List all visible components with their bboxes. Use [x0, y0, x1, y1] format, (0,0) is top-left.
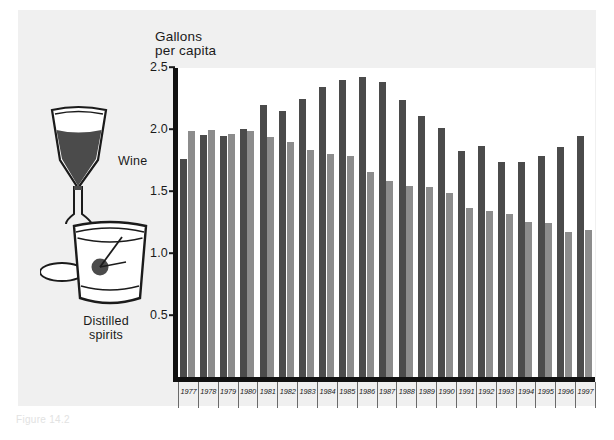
year-label: 1994 [517, 387, 536, 396]
bar-wine [379, 82, 386, 378]
year-label: 1995 [536, 387, 555, 396]
bar-wine [299, 99, 306, 378]
year-label-cell: 1977 [179, 382, 199, 408]
year-label: 1978 [199, 387, 218, 396]
bar-spirits [486, 211, 493, 378]
year-label: 1991 [457, 387, 476, 396]
year-label: 1985 [338, 387, 357, 396]
year-label-cell: 1989 [417, 382, 437, 408]
year-label: 1983 [298, 387, 317, 396]
bar-wine [339, 80, 346, 378]
year-label-cell: 1986 [358, 382, 378, 408]
bar-group [555, 68, 575, 378]
year-label: 1984 [318, 387, 337, 396]
bar-group [516, 68, 536, 378]
bar-spirits [208, 130, 215, 378]
bar-group [535, 68, 555, 378]
year-label-cell: 1979 [219, 382, 239, 408]
year-label-cell: 1981 [258, 382, 278, 408]
bar-wine [557, 147, 564, 378]
bar-wine [279, 111, 286, 378]
bar-spirits [347, 156, 354, 378]
year-label-cell: 1984 [318, 382, 338, 408]
bar-group [396, 68, 416, 378]
year-label-cell: 1992 [477, 382, 497, 408]
year-label: 1977 [179, 387, 198, 396]
bar-spirits [307, 150, 314, 378]
y-tick-label: 2.5 [134, 60, 168, 74]
bar-group [575, 68, 595, 378]
bar-group [218, 68, 238, 378]
year-label-cell: 1988 [397, 382, 417, 408]
bar-wine [260, 105, 267, 378]
bar-spirits [565, 232, 572, 378]
year-label-cell: 1990 [437, 382, 457, 408]
bar-spirits [228, 134, 235, 378]
bar-wine [418, 116, 425, 378]
bar-group [257, 68, 277, 378]
bar-wine [319, 87, 326, 378]
rocks-glass-icon [40, 222, 146, 303]
figure-caption: Figure 14.2 [16, 414, 70, 425]
y-axis-title: Gallons per capita [155, 30, 216, 58]
bar-spirits [506, 214, 513, 378]
bar-wine [518, 162, 525, 378]
bar-wine [220, 136, 227, 378]
bar-spirits [426, 187, 433, 378]
wine-glass-icon [52, 107, 106, 224]
year-label-cell: 1987 [378, 382, 398, 408]
bar-wine [478, 146, 485, 378]
bar-spirits [545, 223, 552, 378]
bar-wine [438, 128, 445, 378]
year-label-cell: 1982 [278, 382, 298, 408]
year-label: 1988 [397, 387, 416, 396]
year-label: 1980 [239, 387, 258, 396]
year-label: 1993 [497, 387, 516, 396]
bar-wine [399, 100, 406, 378]
bar-group [178, 68, 198, 378]
bar-wine [180, 159, 187, 378]
bar-series-container [178, 68, 595, 378]
bar-group [377, 68, 397, 378]
bar-wine [458, 151, 465, 378]
bar-spirits [247, 131, 254, 378]
figure-panel: Gallons per capita 0.51.01.52.02.5 19771… [18, 10, 596, 406]
bar-group [198, 68, 218, 378]
bar-spirits [466, 208, 473, 378]
legend-illustration: Wine Distilled spirits [40, 102, 170, 352]
bar-spirits [327, 154, 334, 378]
bar-wine [359, 77, 366, 378]
year-label-cell: 1997 [576, 382, 596, 408]
bar-wine [577, 136, 584, 378]
year-label: 1990 [437, 387, 456, 396]
bar-wine [498, 162, 505, 378]
year-label-cell: 1980 [239, 382, 259, 408]
bar-group [436, 68, 456, 378]
bar-wine [538, 156, 545, 378]
year-label: 1987 [378, 387, 397, 396]
year-label-cell: 1985 [338, 382, 358, 408]
year-label: 1981 [258, 387, 277, 396]
bar-group [496, 68, 516, 378]
bar-group [297, 68, 317, 378]
year-label-cell: 1993 [497, 382, 517, 408]
bar-spirits [386, 181, 393, 378]
year-label-cell: 1996 [556, 382, 576, 408]
bar-group [416, 68, 436, 378]
year-label-cell: 1991 [457, 382, 477, 408]
bar-spirits [367, 172, 374, 378]
bar-spirits [406, 186, 413, 378]
x-axis-year-labels: 1977197819791980198119821983198419851986… [178, 382, 596, 408]
legend-label-spirits: Distilled spirits [68, 314, 144, 342]
year-label: 1982 [278, 387, 297, 396]
year-label: 1997 [576, 387, 595, 396]
bar-group [238, 68, 258, 378]
bar-group [317, 68, 337, 378]
year-label-cell: 1995 [536, 382, 556, 408]
bar-spirits [525, 222, 532, 378]
year-label-cell: 1994 [517, 382, 537, 408]
year-label: 1992 [477, 387, 496, 396]
bar-group [277, 68, 297, 378]
bar-spirits [267, 137, 274, 378]
year-label: 1989 [417, 387, 436, 396]
